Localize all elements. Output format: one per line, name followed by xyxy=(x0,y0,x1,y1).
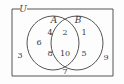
venn-diagram-graphic xyxy=(0,0,124,84)
venn-diagram-figure: U A B 3 9 7 6 4 8 2 10 1 5 xyxy=(0,0,124,84)
set-a-circle xyxy=(27,16,79,70)
set-b-circle xyxy=(51,16,103,70)
